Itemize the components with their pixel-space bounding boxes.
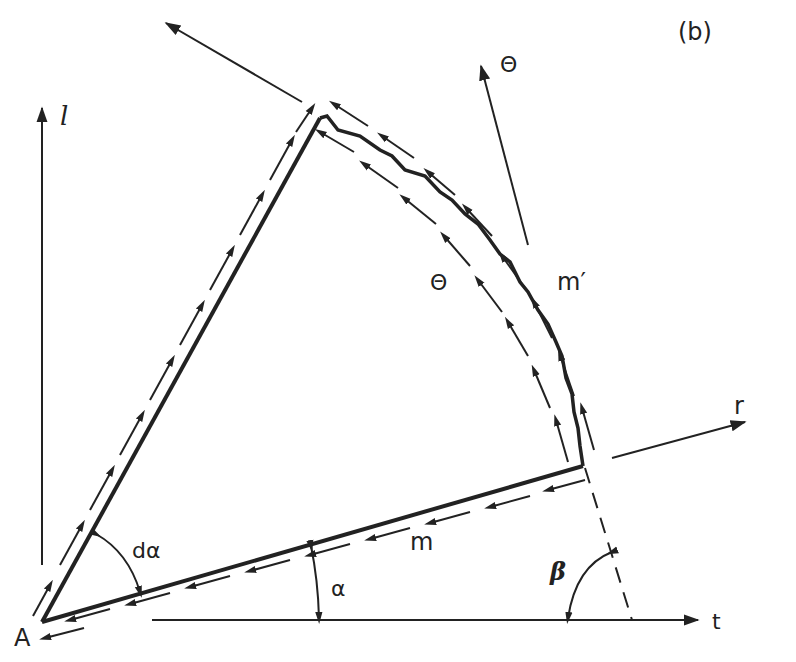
dashed-line-left-edge	[33, 108, 312, 616]
dashed-line-curve-outer	[334, 104, 594, 450]
axis-r: r	[612, 392, 745, 458]
m-prime-label: m′	[557, 268, 586, 296]
axis-r-label: r	[734, 392, 744, 420]
point-a-label: A	[14, 624, 31, 652]
dashed-extension-line	[585, 468, 632, 620]
dislocation-geometry-diagram: l t r Θ (b)	[0, 0, 796, 662]
panel-label: (b)	[678, 18, 712, 46]
alpha-angle: α	[311, 546, 346, 618]
dashed-line-m-edge	[45, 480, 585, 638]
axis-t: t	[152, 609, 721, 634]
theta-segment-label: Θ	[430, 270, 447, 295]
axis-l-label: l	[60, 101, 68, 131]
theta-direction-arrow: Θ	[481, 52, 528, 245]
beta-angle: β	[549, 552, 612, 618]
dislocation-line-solid	[42, 116, 583, 622]
axis-l: l	[42, 101, 68, 565]
beta-label: β	[549, 557, 566, 586]
d-alpha-label: dα	[132, 538, 160, 563]
axis-t-label: t	[712, 609, 721, 634]
d-alpha-angle: dα	[96, 534, 160, 592]
theta-direction-label: Θ	[500, 52, 517, 77]
m-label: m	[410, 528, 433, 556]
alpha-label: α	[331, 576, 346, 601]
normal-arrow-top	[166, 23, 302, 102]
